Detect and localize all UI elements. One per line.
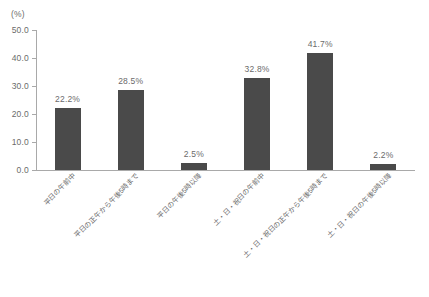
bar-value-label: 28.5% bbox=[118, 76, 143, 86]
y-axis-tick-label: 50.0 bbox=[12, 25, 29, 35]
bar[interactable] bbox=[181, 163, 207, 170]
bar-chart: (%) 0.010.020.030.040.050.0 22.2%28.5%2.… bbox=[0, 0, 429, 297]
bar-slot: 2.5% bbox=[162, 30, 225, 170]
bar-slot: 41.7% bbox=[289, 30, 352, 170]
bar-slot: 22.2% bbox=[36, 30, 99, 170]
bar-value-label: 22.2% bbox=[55, 94, 80, 104]
x-axis-category-label: 平日の午後5時以降 bbox=[156, 172, 204, 220]
bar[interactable] bbox=[55, 108, 81, 170]
x-axis-category-label: 平日の正午から午後5時まで bbox=[73, 172, 140, 239]
bar-value-label: 2.5% bbox=[184, 149, 204, 159]
bar[interactable] bbox=[370, 164, 396, 170]
bar-slot: 2.2% bbox=[352, 30, 415, 170]
y-axis-tick-mark bbox=[32, 170, 36, 171]
bar-slot: 28.5% bbox=[99, 30, 162, 170]
y-axis-tick-label: 10.0 bbox=[12, 137, 29, 147]
bar-value-label: 32.8% bbox=[245, 64, 270, 74]
y-axis-tick-label: 40.0 bbox=[12, 53, 29, 63]
bar-value-label: 41.7% bbox=[308, 39, 333, 49]
bar-value-label: 2.2% bbox=[373, 150, 393, 160]
x-axis-category-label: 平日の午前中 bbox=[42, 172, 77, 207]
bar[interactable] bbox=[244, 78, 270, 170]
plot-area: 0.010.020.030.040.050.0 22.2%28.5%2.5%32… bbox=[36, 30, 415, 170]
x-axis-category-label: 土・日・祝日の午後5時以降 bbox=[325, 172, 392, 239]
x-axis-category-label: 土・日・祝日の午前中 bbox=[212, 172, 267, 227]
x-axis-line bbox=[36, 170, 415, 171]
y-axis-tick-label: 0.0 bbox=[17, 165, 29, 175]
bar[interactable] bbox=[118, 90, 144, 170]
y-axis-tick-label: 30.0 bbox=[12, 81, 29, 91]
y-axis-tick-label: 20.0 bbox=[12, 109, 29, 119]
bar[interactable] bbox=[307, 53, 333, 170]
y-axis-unit-label: (%) bbox=[11, 9, 25, 19]
bar-slot: 32.8% bbox=[226, 30, 289, 170]
